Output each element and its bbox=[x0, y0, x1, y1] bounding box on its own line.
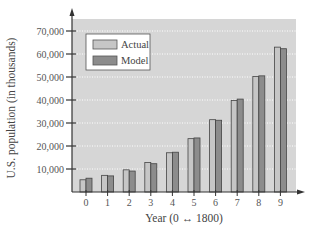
bar-model bbox=[172, 152, 178, 192]
bar-model bbox=[237, 99, 243, 192]
y-tick-label: 10,000 bbox=[37, 164, 65, 175]
y-tick-label: 50,000 bbox=[37, 72, 65, 83]
y-axis-title: U.S. population (in thousands) bbox=[5, 37, 18, 178]
y-tick-label: 20,000 bbox=[37, 141, 65, 152]
x-tick-label: 7 bbox=[235, 197, 240, 208]
bar-actual bbox=[274, 47, 280, 192]
bar-actual bbox=[123, 170, 129, 192]
bar-actual bbox=[188, 139, 194, 192]
legend-label-actual: Actual bbox=[121, 39, 149, 50]
x-tick-label: 4 bbox=[170, 197, 175, 208]
bar-actual bbox=[166, 153, 172, 192]
bar-actual bbox=[210, 120, 216, 192]
x-tick-label: 1 bbox=[105, 197, 110, 208]
bar-model bbox=[108, 176, 114, 192]
bar-model bbox=[151, 164, 157, 192]
legend-swatch-actual bbox=[93, 40, 117, 49]
y-tick-label: 70,000 bbox=[37, 26, 65, 37]
bar-model bbox=[280, 49, 286, 192]
bar-model bbox=[129, 171, 135, 192]
x-tick-label: 8 bbox=[256, 197, 261, 208]
y-tick-label: 30,000 bbox=[37, 118, 65, 129]
x-ticks: 0123456789 bbox=[84, 190, 283, 208]
y-tick-label: 60,000 bbox=[37, 49, 65, 60]
legend: Actual Model bbox=[86, 34, 150, 70]
bar-model bbox=[259, 76, 265, 192]
x-tick-label: 3 bbox=[148, 197, 153, 208]
x-tick-label: 5 bbox=[192, 197, 197, 208]
bar-actual bbox=[231, 100, 237, 192]
bar-model bbox=[86, 178, 92, 192]
x-tick-label: 6 bbox=[213, 197, 218, 208]
y-axis-arrow-icon bbox=[70, 8, 75, 16]
y-ticks: 10,00020,00030,00040,00050,00060,00070,0… bbox=[37, 26, 77, 175]
x-tick-label: 2 bbox=[127, 197, 132, 208]
bar-actual bbox=[80, 180, 86, 192]
population-bar-chart: 10,00020,00030,00040,00050,00060,00070,0… bbox=[0, 0, 321, 233]
x-axis-title: Year (0 ↔ 1800) bbox=[145, 212, 223, 225]
legend-label-model: Model bbox=[121, 55, 148, 66]
x-tick-label: 0 bbox=[84, 197, 89, 208]
legend-swatch-model bbox=[93, 56, 117, 65]
bar-actual bbox=[253, 77, 259, 192]
bar-actual bbox=[145, 162, 151, 192]
bar-actual bbox=[102, 175, 108, 192]
bar-model bbox=[194, 138, 200, 192]
x-tick-label: 9 bbox=[278, 197, 283, 208]
y-tick-label: 40,000 bbox=[37, 95, 65, 106]
bar-model bbox=[216, 120, 222, 192]
x-axis-arrow-icon bbox=[297, 190, 305, 195]
